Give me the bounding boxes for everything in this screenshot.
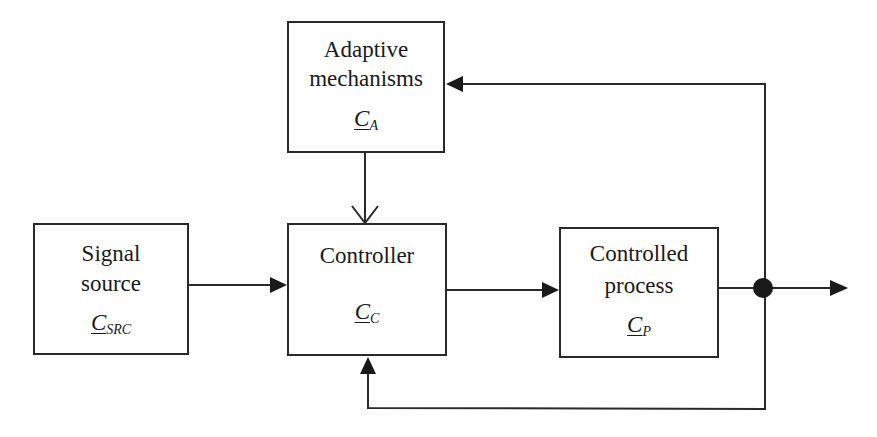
block-symbol: CSRC [35, 311, 187, 342]
block-signal-source: Signal source CSRC [33, 223, 189, 355]
block-label-line-2: process [561, 271, 717, 301]
block-symbol: CP [561, 313, 717, 344]
block-adaptive-mechanisms: Adaptive mechanisms CA [287, 21, 445, 153]
arrowhead-icon [830, 280, 848, 296]
arrowhead-icon [270, 277, 287, 293]
block-label-line-1: Adaptive [289, 35, 443, 65]
arrowhead-icon [542, 282, 559, 298]
block-controller: Controller CC [287, 223, 447, 356]
block-controlled-process: Controlled process CP [559, 227, 719, 358]
block-label-line-1: Controller [289, 241, 445, 271]
junction-dot-icon [753, 278, 773, 298]
arrowhead-icon [360, 357, 376, 374]
block-symbol: CA [289, 107, 443, 138]
block-label-line-2: mechanisms [289, 64, 443, 94]
arrowhead-icon [446, 76, 463, 92]
block-symbol: CC [289, 300, 445, 331]
block-label-line-1: Controlled [561, 239, 717, 269]
block-label-line-2: source [35, 269, 187, 299]
block-label-line-1: Signal [35, 239, 187, 269]
